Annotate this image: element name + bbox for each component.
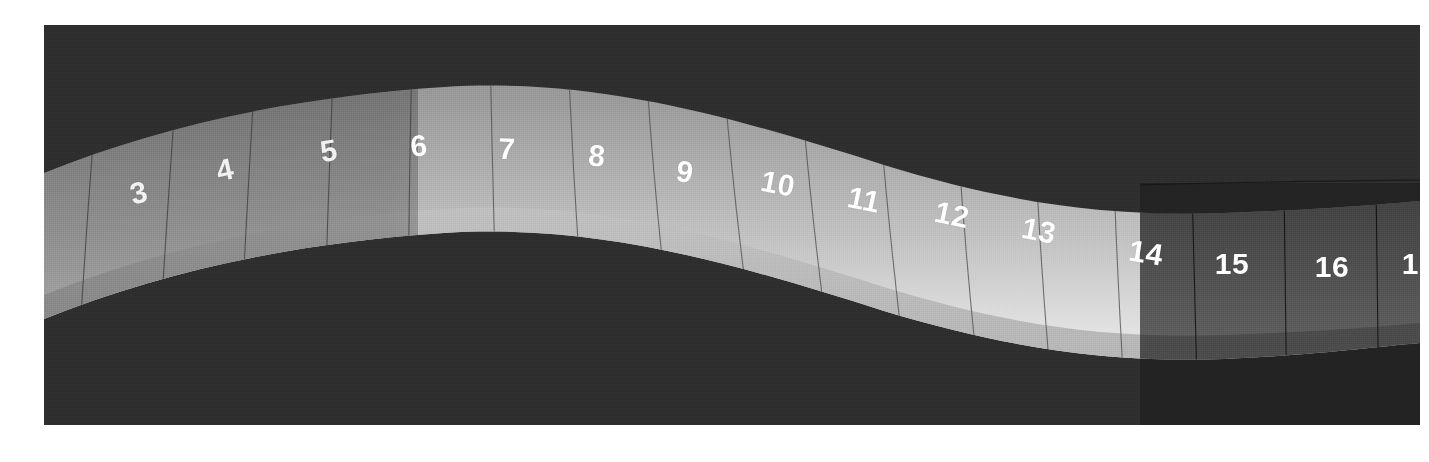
zone-overlay-dark-right (1140, 25, 1420, 425)
zone-overlay-dim-left (44, 25, 418, 425)
ribbon-graphic (44, 25, 1420, 425)
photo-plate: 34567891011121314151617 (44, 25, 1420, 425)
figure-canvas: 34567891011121314151617 (0, 0, 1429, 462)
